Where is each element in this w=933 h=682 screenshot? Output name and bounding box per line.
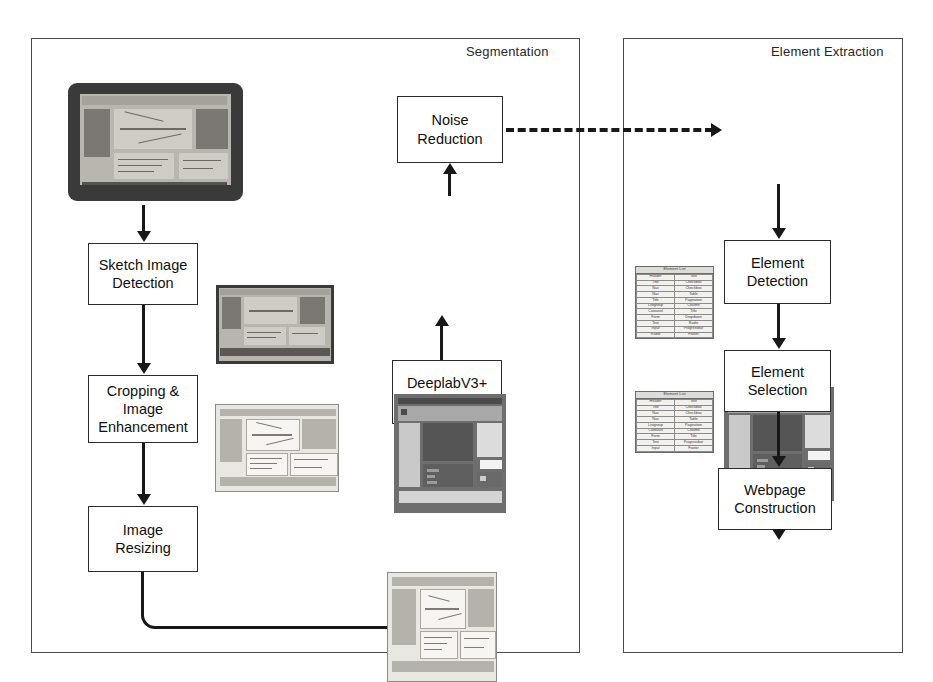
- cropping-to-resizing-arrow: [137, 494, 151, 505]
- element-selection-to-webpage-construction-arrow: [772, 456, 786, 467]
- box-sketch-image-detection-line1: Sketch Image: [99, 256, 188, 274]
- element-list-cell: Input: [637, 446, 675, 452]
- element-list-cell: Radio: [637, 332, 675, 338]
- box-element-selection-line1: Element: [748, 363, 808, 381]
- noise-reduction-to-element-extraction-arrow: [711, 123, 722, 137]
- sketch-detection-to-cropping-line: [142, 305, 145, 366]
- element-detection-to-selection-line: [777, 304, 780, 341]
- box-noise-reduction-line2: Reduction: [417, 130, 482, 148]
- webpage-construction-to-preview-arrow: [772, 529, 786, 540]
- segmentation-mask-image: [394, 394, 506, 513]
- mask-to-deeplab-line: [440, 322, 443, 360]
- element-list-cell: Footer: [675, 446, 713, 452]
- element-list-selected-body: HeaderTextTitleCheckboxNavCheckboxNavTab…: [636, 399, 713, 452]
- box-image-resizing-line1: Image: [115, 521, 171, 539]
- panel-segmentation-label: Segmentation: [466, 44, 549, 59]
- box-element-selection[interactable]: Element Selection: [724, 350, 831, 412]
- box-cropping-image-enhancement[interactable]: Cropping & Image Enhancement: [88, 375, 198, 443]
- box-webpage-construction-line1: Webpage: [734, 481, 815, 499]
- noise-reduction-to-element-extraction-dashed: [506, 128, 713, 132]
- mask-to-deeplab-arrow: [435, 315, 449, 326]
- monitor-to-sketch-detection-arrow: [137, 231, 151, 242]
- element-list-detected-table: Element List HeaderTextTitleCheckboxNavC…: [635, 266, 714, 339]
- box-webpage-construction-line2: Construction: [734, 499, 815, 517]
- element-selection-to-webpage-construction-line: [777, 412, 780, 459]
- box-element-detection-line2: Detection: [747, 272, 808, 290]
- element-detection-to-selection-arrow: [772, 338, 786, 349]
- denoised-mask-to-element-detection-arrow: [772, 228, 786, 239]
- panel-element-extraction-label: Element Extraction: [771, 44, 884, 59]
- monitor-screen: [80, 94, 231, 185]
- box-sketch-image-detection[interactable]: Sketch Image Detection: [88, 243, 198, 305]
- box-cropping-line3: Enhancement: [98, 418, 187, 436]
- denoised-mask-to-element-detection-line: [777, 184, 780, 231]
- element-list-selected-header: Element List: [636, 392, 713, 399]
- element-list-cell: Footer: [675, 332, 713, 338]
- box-image-resizing-line2: Resizing: [115, 539, 171, 557]
- box-sketch-image-detection-line2: Detection: [99, 274, 188, 292]
- photo-monitor-sketch-image: [68, 83, 243, 201]
- element-list-row: RadioFooter: [637, 332, 713, 338]
- sketch-detection-to-cropping-arrow: [137, 363, 151, 374]
- box-deeplab-line1: DeeplabV3+: [407, 374, 487, 392]
- box-webpage-construction[interactable]: Webpage Construction: [718, 468, 832, 530]
- element-list-detected-body: HeaderTextTitleCheckboxNavCheckboxNavTab…: [636, 274, 713, 339]
- box-noise-reduction[interactable]: Noise Reduction: [397, 96, 503, 163]
- monitor-to-sketch-detection-line: [142, 205, 145, 234]
- element-list-selected-table: Element List HeaderTextTitleCheckboxNavC…: [635, 391, 714, 453]
- box-cropping-line1: Cropping &: [98, 382, 187, 400]
- element-list-detected-header: Element List: [636, 267, 713, 274]
- box-noise-reduction-line1: Noise: [417, 111, 482, 129]
- element-list-row: InputFooter: [637, 446, 713, 452]
- flowchart-canvas: Segmentation Element Extraction Sketch I…: [0, 0, 933, 682]
- enhanced-sketch-scan-image: [215, 404, 339, 492]
- mask-to-noise-reduction-arrow: [443, 163, 457, 174]
- cropped-sketch-photo-image: [216, 285, 334, 364]
- box-element-detection[interactable]: Element Detection: [724, 240, 831, 304]
- box-cropping-line2: Image: [98, 400, 187, 418]
- resized-sketch-input-image: [387, 572, 497, 682]
- box-element-selection-line2: Selection: [748, 381, 808, 399]
- box-element-detection-line1: Element: [747, 254, 808, 272]
- resizing-elbow-down: [141, 572, 261, 629]
- box-image-resizing[interactable]: Image Resizing: [88, 506, 198, 572]
- cropping-to-resizing-line: [142, 443, 145, 497]
